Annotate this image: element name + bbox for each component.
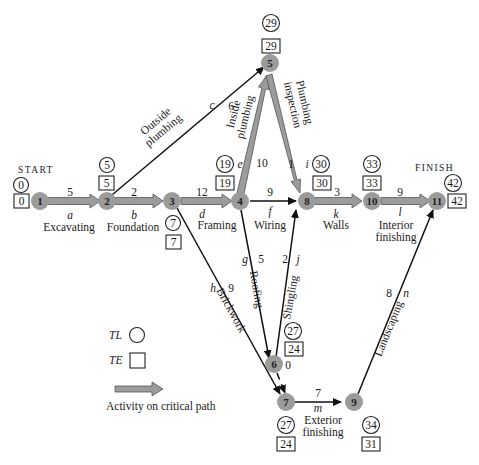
legend-critical-label: Activity on critical path <box>106 400 216 413</box>
activity-n-letter: n <box>403 287 409 299</box>
activity-m-duration: 7 <box>315 387 321 399</box>
svg-text:7: 7 <box>283 396 289 408</box>
legend-critical-arrow-icon <box>115 382 163 396</box>
node-11-tl: 42 <box>445 175 462 192</box>
activity-c-name: Outside plumbing <box>135 102 185 150</box>
svg-text:9: 9 <box>351 396 357 408</box>
finish-label: FINISH <box>415 163 454 173</box>
svg-text:2: 2 <box>104 195 110 207</box>
node-9-tl: 34 <box>363 417 380 434</box>
node-1: 1 <box>31 192 49 210</box>
svg-text:0: 0 <box>18 179 24 191</box>
node-8-te: 30 <box>313 176 331 190</box>
node-8-tl: 30 <box>313 156 330 173</box>
svg-text:27: 27 <box>280 419 292 431</box>
node-9: 9 <box>345 393 363 411</box>
svg-text:19: 19 <box>219 158 231 170</box>
svg-text:7: 7 <box>171 236 177 248</box>
activity-i-name: Plumbing inspection <box>281 78 316 130</box>
activity-m-name-line1: Exterior <box>304 414 342 426</box>
node-8: 8 <box>298 192 316 210</box>
node-2: 2 <box>98 192 116 210</box>
svg-text:27: 27 <box>287 325 299 337</box>
node-4-te: 19 <box>216 176 234 190</box>
node-6: 6 <box>265 355 283 373</box>
activity-d-duration: 12 <box>196 186 208 198</box>
activity-a-duration: 5 <box>67 186 73 198</box>
activity-f-duration: 9 <box>267 186 273 198</box>
svg-text:29: 29 <box>265 17 277 29</box>
node-1-te: 0 <box>14 194 29 208</box>
arrow-b-foundation <box>115 194 163 208</box>
node-7-te: 24 <box>277 437 295 451</box>
node-10-te: 33 <box>363 176 381 190</box>
svg-text:29: 29 <box>265 40 277 52</box>
node-11-te: 42 <box>448 194 466 208</box>
activity-f-name: Wiring <box>254 219 286 232</box>
node-5-te: 29 <box>262 39 280 53</box>
activity-f-letter: f <box>268 205 273 218</box>
activity-l-name-line1: Interior <box>379 219 414 231</box>
node-7-tl: 27 <box>278 417 295 434</box>
activity-m-name-line2: finishing <box>303 426 344 439</box>
svg-text:11: 11 <box>432 195 442 207</box>
activity-d-name: Framing <box>198 219 237 232</box>
node-2-te: 5 <box>99 176 114 190</box>
activity-i-letter: i <box>305 158 308 170</box>
activity-j-letter: j <box>294 253 299 266</box>
node-6-te: 24 <box>285 342 303 356</box>
svg-text:5: 5 <box>104 159 110 171</box>
svg-text:33: 33 <box>366 158 378 170</box>
activity-b-letter: b <box>131 209 137 221</box>
svg-text:4: 4 <box>237 195 243 207</box>
node-3-te: 7 <box>166 235 181 249</box>
svg-text:10: 10 <box>367 195 379 207</box>
activity-n-name: Landscaping <box>372 299 406 359</box>
node-5-tl: 29 <box>263 15 280 32</box>
activity-g-name: Roofing <box>247 270 266 310</box>
node-10: 10 <box>363 192 381 210</box>
node-4: 4 <box>231 192 249 210</box>
svg-text:8: 8 <box>304 195 310 207</box>
activity-a-name: Excavating <box>43 221 95 234</box>
start-label: START <box>18 165 54 175</box>
legend: TL TE Activity on critical path <box>106 328 216 414</box>
activity-l-letter: l <box>398 206 401 218</box>
activity-e-duration: 10 <box>256 157 268 169</box>
node-3-tl: 7 <box>166 216 181 231</box>
svg-text:0: 0 <box>19 195 25 207</box>
node-5: 5 <box>261 54 279 72</box>
svg-text:3: 3 <box>169 195 175 207</box>
arrow-a-excavating <box>46 194 100 208</box>
node-9-te: 31 <box>362 437 380 451</box>
svg-text:33: 33 <box>366 177 378 189</box>
legend-tl-label: TL <box>109 329 122 341</box>
activity-c-letter: c <box>209 99 214 111</box>
node-1-tl: 0 <box>14 178 29 193</box>
svg-text:1: 1 <box>37 195 43 207</box>
activity-l-duration: 9 <box>397 186 403 198</box>
svg-text:42: 42 <box>451 195 463 207</box>
svg-text:42: 42 <box>447 177 459 189</box>
node-7: 7 <box>277 393 295 411</box>
svg-text:30: 30 <box>316 177 328 189</box>
node-11: 11 <box>428 192 446 210</box>
svg-text:5: 5 <box>267 57 273 69</box>
legend-te-box-icon <box>130 353 145 368</box>
activity-dummy-duration: 0 <box>285 359 291 371</box>
svg-text:24: 24 <box>280 438 292 450</box>
svg-text:30: 30 <box>315 158 327 170</box>
pert-network-diagram: 1 2 3 4 5 6 7 8 9 10 11 0 0 5 5 7 7 19 1… <box>0 0 479 465</box>
arrow-l-interior-finishing <box>381 194 430 208</box>
activity-j-name: Shingling <box>280 274 301 321</box>
svg-text:31: 31 <box>365 438 377 450</box>
activity-k-name: Walls <box>323 219 349 231</box>
activity-k-duration: 3 <box>334 186 340 198</box>
node-2-tl: 5 <box>100 158 115 173</box>
activity-b-duration: 2 <box>131 186 137 198</box>
svg-text:7: 7 <box>170 217 176 229</box>
activity-g-duration: 5 <box>258 253 264 265</box>
svg-text:19: 19 <box>219 177 231 189</box>
legend-te-label: TE <box>109 354 122 366</box>
node-6-tl: 27 <box>285 323 302 340</box>
